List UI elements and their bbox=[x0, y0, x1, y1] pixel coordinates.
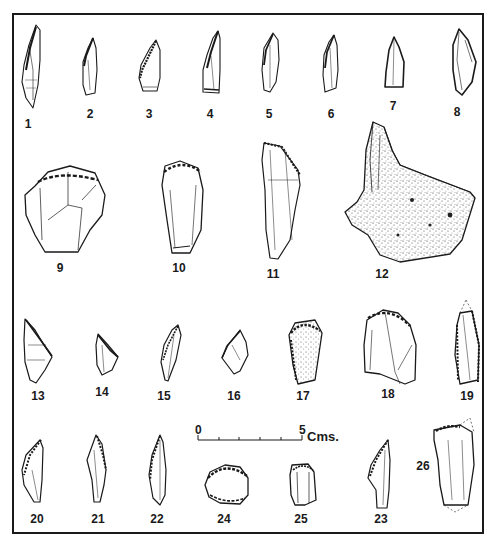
artifact-label-14: 14 bbox=[95, 386, 108, 398]
artifact-18-drawing bbox=[364, 310, 416, 384]
artifact-label-19: 19 bbox=[460, 390, 473, 402]
artifact-26-drawing bbox=[434, 418, 474, 512]
artifact-label-21: 21 bbox=[91, 513, 104, 525]
artifact-label-13: 13 bbox=[31, 390, 44, 402]
artifact-15-drawing bbox=[161, 325, 181, 381]
artifact-label-5: 5 bbox=[266, 108, 273, 120]
artifact-label-10: 10 bbox=[172, 262, 185, 274]
artifact-3-drawing bbox=[139, 40, 160, 91]
artifact-label-23: 23 bbox=[374, 513, 387, 525]
artifact-22-drawing bbox=[149, 435, 166, 505]
artifact-label-3: 3 bbox=[146, 108, 153, 120]
artifact-21-drawing bbox=[87, 435, 106, 502]
artifact-label-24: 24 bbox=[217, 513, 230, 525]
artifact-14-drawing bbox=[96, 334, 118, 375]
artifact-7-drawing bbox=[385, 37, 404, 87]
scale-start-label: 0 bbox=[195, 424, 202, 436]
artifact-6-drawing bbox=[323, 35, 338, 92]
artifact-label-11: 11 bbox=[267, 268, 280, 280]
artifact-label-15: 15 bbox=[157, 390, 170, 402]
artifact-label-25: 25 bbox=[294, 513, 307, 525]
artifact-24-drawing bbox=[205, 465, 248, 504]
artifact-11-drawing bbox=[262, 143, 300, 259]
artifact-label-17: 17 bbox=[296, 390, 309, 402]
artifact-10-drawing bbox=[162, 161, 203, 253]
artifact-label-1: 1 bbox=[25, 118, 32, 130]
artifact-17-drawing bbox=[289, 320, 322, 384]
artifact-2-drawing bbox=[83, 38, 97, 95]
artifact-label-2: 2 bbox=[87, 108, 94, 120]
artifact-label-20: 20 bbox=[30, 513, 43, 525]
artifact-label-22: 22 bbox=[150, 513, 163, 525]
artifact-19-drawing bbox=[455, 300, 479, 384]
scale-end-label: 5 bbox=[299, 424, 306, 436]
artifact-label-9: 9 bbox=[57, 262, 64, 274]
artifact-8-drawing bbox=[453, 29, 476, 95]
artifact-25-drawing bbox=[290, 464, 316, 505]
artifact-1-drawing bbox=[22, 25, 40, 108]
artifact-16-drawing bbox=[222, 330, 248, 374]
artifact-label-4: 4 bbox=[207, 108, 214, 120]
artifact-4-drawing bbox=[203, 31, 220, 93]
artifact-9-drawing bbox=[25, 166, 105, 252]
artifact-label-7: 7 bbox=[390, 100, 397, 112]
scale-unit-label: Cms. bbox=[307, 430, 339, 443]
artifact-label-16: 16 bbox=[227, 390, 240, 402]
artifact-13-drawing bbox=[24, 319, 52, 383]
artifact-23-drawing bbox=[368, 440, 390, 508]
artifact-12-drawing bbox=[345, 122, 475, 262]
artifact-label-18: 18 bbox=[381, 388, 394, 400]
artifact-5-drawing bbox=[262, 33, 279, 92]
artifact-label-8: 8 bbox=[454, 106, 461, 118]
artifact-label-12: 12 bbox=[375, 268, 388, 280]
scale-bar bbox=[198, 435, 302, 440]
artifact-label-26: 26 bbox=[416, 460, 429, 472]
artifact-label-6: 6 bbox=[328, 108, 335, 120]
artifact-20-drawing bbox=[22, 440, 43, 502]
